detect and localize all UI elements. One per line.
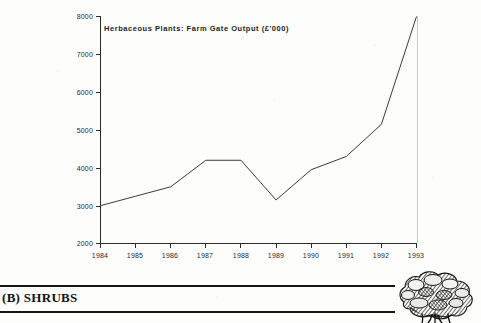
x-tick-label: 1987: [197, 252, 213, 259]
section-rule-top: [0, 285, 395, 287]
y-tick-label: 4000: [77, 165, 93, 172]
y-axis-tick-labels: 8000 7000 6000 5000 4000 3000 2000: [77, 13, 93, 247]
x-axis-tick-labels: 1984 1985 1986 1987 1988 1989 1990 1991 …: [92, 252, 424, 259]
x-tick-label: 1990: [303, 252, 319, 259]
y-tick-label: 6000: [77, 89, 93, 96]
x-tick-label: 1984: [92, 252, 108, 259]
chart-title: Herbaceous Plants: Farm Gate Output (£'0…: [104, 24, 289, 33]
x-axis-ticks: [101, 244, 417, 249]
y-tick-label: 8000: [77, 13, 93, 20]
x-tick-label: 1988: [233, 252, 249, 259]
x-tick-label: 1985: [127, 252, 143, 259]
x-tick-label: 1989: [268, 252, 284, 259]
shrub-engraving-icon: [392, 268, 481, 323]
y-tick-label: 2000: [77, 240, 93, 247]
line-chart: 8000 7000 6000 5000 4000 3000 2000 1984 …: [0, 0, 481, 268]
x-tick-label: 1993: [408, 252, 424, 259]
y-tick-label: 7000: [77, 51, 93, 58]
x-tick-label: 1991: [338, 252, 354, 259]
data-series-line: [101, 17, 417, 206]
shrubs-section: (B) SHRUBS: [0, 268, 481, 323]
chart-figure: 8000 7000 6000 5000 4000 3000 2000 1984 …: [0, 0, 481, 268]
y-axis-ticks: [96, 17, 101, 244]
section-heading: (B) SHRUBS: [2, 290, 78, 306]
x-tick-label: 1992: [373, 252, 389, 259]
y-tick-label: 5000: [77, 127, 93, 134]
section-rule-bottom: [0, 311, 395, 313]
x-tick-label: 1986: [162, 252, 178, 259]
y-tick-label: 3000: [77, 203, 93, 210]
